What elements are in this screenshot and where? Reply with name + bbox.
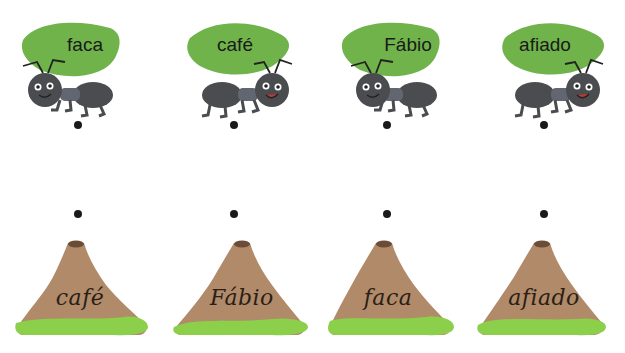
hill-card-3: faca [326, 235, 466, 340]
leaf-word: afiado [500, 34, 590, 56]
leaf-word: café [190, 34, 280, 56]
bottom-dot-2[interactable] [230, 210, 238, 218]
hill-word: Fábio [172, 285, 312, 310]
top-dot-2[interactable] [230, 121, 238, 129]
bottom-dot-4[interactable] [540, 210, 548, 218]
top-dot-3[interactable] [383, 121, 391, 129]
ant-leaf-icon [180, 10, 310, 120]
ant-leaf-icon [15, 10, 145, 120]
ant-leaf-icon [495, 10, 625, 120]
ant-leaf-icon [335, 10, 465, 120]
hill-card-1: café [14, 235, 154, 340]
hill-word: café [10, 285, 150, 310]
hill-card-4: afiado [476, 235, 616, 340]
ant-card-4: afiado [495, 10, 625, 125]
ant-card-1: faca [15, 10, 145, 125]
leaf-word: faca [40, 34, 130, 56]
bottom-dot-3[interactable] [383, 210, 391, 218]
top-dot-4[interactable] [540, 121, 548, 129]
bottom-dot-1[interactable] [74, 210, 82, 218]
ant-card-3: Fábio [335, 10, 465, 125]
top-dot-1[interactable] [74, 121, 82, 129]
hill-word: afiado [474, 285, 614, 310]
ant-card-2: café [180, 10, 310, 125]
hill-word: faca [318, 285, 458, 310]
hill-card-2: Fábio [172, 235, 312, 340]
leaf-word: Fábio [363, 34, 453, 56]
